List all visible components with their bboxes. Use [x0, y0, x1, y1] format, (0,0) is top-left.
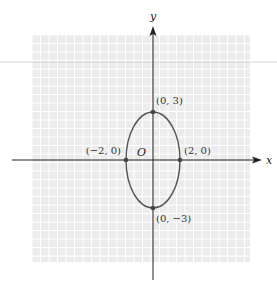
point-marker: [178, 158, 183, 163]
point-label: (−2, 0): [86, 145, 121, 156]
x-axis-label: x: [266, 154, 273, 167]
point-marker: [151, 206, 156, 211]
y-axis-label: y: [149, 10, 157, 23]
point-label: (0, −3): [156, 213, 191, 224]
ellipse-chart: (0, 3)(2, 0)(−2, 0)(0, −3) x y O: [0, 0, 277, 288]
point-marker: [151, 110, 156, 115]
point-label: (0, 3): [156, 95, 183, 106]
point-label: (2, 0): [184, 145, 211, 156]
point-marker: [124, 158, 129, 163]
origin-label: O: [137, 146, 146, 159]
